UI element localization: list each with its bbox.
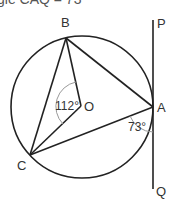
label-c: C — [17, 158, 26, 173]
label-q: Q — [156, 184, 166, 199]
angle-label-caq: 73° — [128, 120, 146, 134]
circle-theorem-diagram: B O A C P Q 112° 73° — [0, 0, 192, 200]
angle-label-boc: 112° — [55, 99, 79, 113]
label-p: P — [157, 16, 166, 31]
label-a: A — [157, 100, 166, 115]
label-o: O — [84, 99, 94, 114]
circle — [11, 36, 153, 178]
label-b: B — [61, 15, 70, 30]
